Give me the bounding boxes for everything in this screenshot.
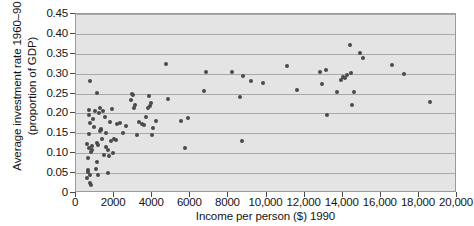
data-point (320, 82, 324, 86)
data-point (88, 121, 92, 125)
data-point (106, 148, 110, 152)
x-tick-mark (456, 192, 457, 197)
x-tick-mark (189, 192, 190, 197)
data-point (102, 153, 106, 157)
data-point (349, 71, 353, 75)
data-point (428, 100, 432, 104)
data-point (147, 94, 151, 98)
x-tick-label: 16,000 (363, 196, 397, 208)
data-point (135, 133, 139, 137)
data-point (88, 173, 92, 177)
x-tick-label: 6000 (177, 196, 202, 208)
gridline (76, 153, 455, 154)
x-tick-mark (227, 192, 228, 197)
data-point (361, 56, 365, 60)
data-point (124, 124, 128, 128)
y-tick-label: 0.25 (28, 87, 68, 99)
y-tick-label: 0.35 (28, 47, 68, 59)
x-tick-mark (380, 192, 381, 197)
x-axis-title: Income per person ($) 1990 (75, 210, 456, 222)
data-point (179, 119, 183, 123)
data-point (204, 70, 208, 74)
x-tick-label: 8000 (215, 196, 240, 208)
x-tick-mark (266, 192, 267, 197)
data-point (88, 79, 92, 83)
data-point (96, 143, 100, 147)
data-point (166, 97, 170, 101)
data-point (186, 116, 190, 120)
data-point (110, 107, 114, 111)
data-point (402, 72, 406, 76)
data-point (241, 74, 245, 78)
data-point (295, 88, 299, 92)
data-point (164, 62, 168, 66)
data-point (87, 108, 91, 112)
data-point (154, 119, 158, 123)
data-point (390, 63, 394, 67)
data-point (238, 95, 242, 99)
data-point (131, 93, 135, 97)
gridline (76, 14, 455, 15)
data-point (86, 156, 90, 160)
data-point (150, 133, 154, 137)
data-point (318, 70, 322, 74)
y-tick-label: 0.05 (28, 166, 68, 178)
data-point (96, 173, 100, 177)
gridline (76, 133, 455, 134)
y-tick-label: 0.10 (28, 146, 68, 158)
y-tick-label: 0.45 (28, 7, 68, 19)
gridline (76, 54, 455, 55)
gridline (76, 113, 455, 114)
data-point (92, 125, 96, 129)
data-point (202, 89, 206, 93)
y-tick-label: 0.20 (28, 106, 68, 118)
data-point (95, 91, 99, 95)
x-tick-mark (75, 192, 76, 197)
y-axis-title-line-1: Average investment rate 1960–90 (10, 0, 25, 181)
data-point (348, 43, 352, 47)
plot-area (75, 13, 456, 192)
data-point (240, 139, 244, 143)
x-tick-label: 10,000 (249, 196, 283, 208)
x-tick-mark (151, 192, 152, 197)
data-point (90, 148, 94, 152)
data-point (151, 126, 155, 130)
data-point (118, 121, 122, 125)
data-point (149, 101, 153, 105)
data-point (133, 103, 137, 107)
data-point (103, 115, 107, 119)
data-point (108, 120, 112, 124)
data-point (350, 103, 354, 107)
data-point (129, 98, 133, 102)
data-point (183, 146, 187, 150)
data-point (285, 64, 289, 68)
data-point (230, 70, 234, 74)
gridline (76, 34, 455, 35)
data-point (144, 115, 148, 119)
x-tick-mark (418, 192, 419, 197)
data-point (87, 132, 91, 136)
y-tick-label: 0.15 (28, 126, 68, 138)
data-point (343, 76, 347, 80)
data-point (261, 81, 265, 85)
data-point (114, 138, 118, 142)
y-tick-label: 0 (28, 186, 68, 198)
data-point (358, 51, 362, 55)
x-tick-label: 20,000 (439, 196, 473, 208)
x-tick-label: 4000 (139, 196, 164, 208)
y-tick-label: 0.40 (28, 27, 68, 39)
data-point (106, 171, 110, 175)
data-point (91, 117, 95, 121)
data-point (94, 167, 98, 171)
x-tick-mark (113, 192, 114, 197)
data-point (324, 68, 328, 72)
data-point (89, 183, 93, 187)
x-tick-label: 0 (72, 196, 78, 208)
x-tick-label: 18,000 (401, 196, 435, 208)
gridline (76, 173, 455, 174)
data-point (100, 137, 104, 141)
x-tick-label: 12,000 (287, 196, 321, 208)
x-tick-label: 2000 (101, 196, 126, 208)
x-tick-mark (342, 192, 343, 197)
data-point (95, 160, 99, 164)
